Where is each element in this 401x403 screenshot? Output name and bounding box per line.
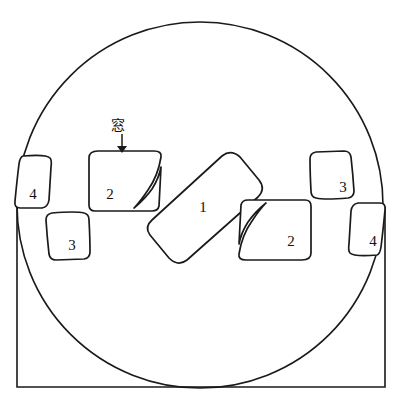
figure-canvas: 窓 1 2 2 3 3 4 4 — [0, 0, 401, 403]
part-4-right-label: 4 — [369, 234, 377, 249]
part-3-left-label: 3 — [68, 238, 76, 253]
part-4-left-label: 4 — [29, 187, 37, 202]
part-2-left-shape — [89, 151, 161, 211]
part-2-left-label: 2 — [106, 187, 114, 202]
window-annotation-label: 窓 — [111, 118, 125, 132]
part-2-right-label: 2 — [287, 234, 295, 249]
part-3-right-label: 3 — [339, 180, 347, 195]
part-2-right-shape — [239, 200, 311, 260]
part-3-right-shape — [310, 151, 354, 199]
part-4-right-shape — [349, 203, 385, 256]
part-1-label: 1 — [199, 200, 207, 215]
